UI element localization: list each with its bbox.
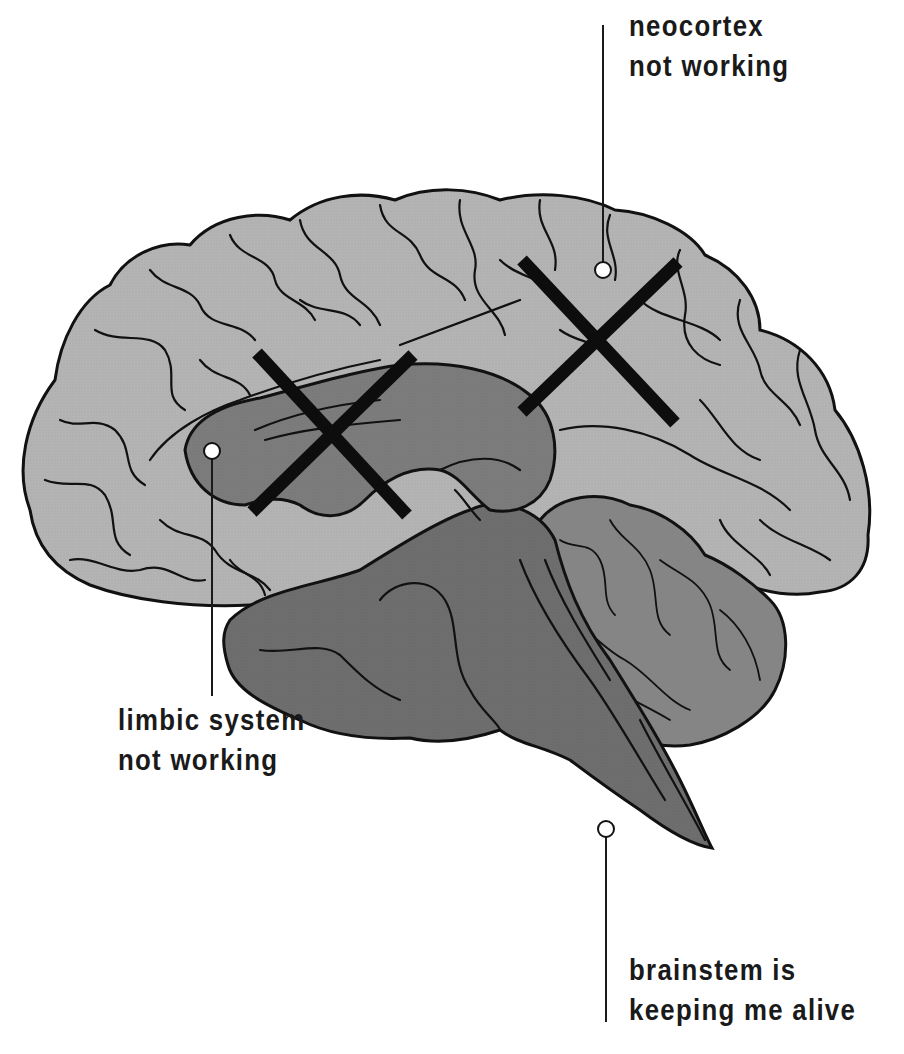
marker-dot-brainstem (598, 821, 614, 837)
callout-neocortex-line2: not working (629, 46, 789, 86)
callout-limbic-system: limbic system not working (118, 700, 305, 780)
callout-neocortex-line1: neocortex (629, 6, 789, 46)
marker-dot-limbic (204, 443, 220, 459)
callout-brainstem-line2: keeping me alive (629, 990, 856, 1030)
callout-neocortex: neocortex not working (629, 6, 789, 86)
callout-brainstem: brainstem is keeping me alive (629, 950, 856, 1030)
callout-limbic-line1: limbic system (118, 700, 305, 740)
callout-limbic-line2: not working (118, 740, 305, 780)
callout-brainstem-line1: brainstem is (629, 950, 856, 990)
brain-diagram (0, 0, 904, 1054)
marker-dot-neocortex (595, 262, 611, 278)
